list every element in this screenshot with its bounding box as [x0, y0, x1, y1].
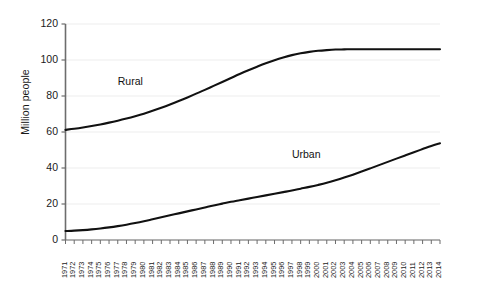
series-label-urban: Urban: [292, 148, 321, 160]
series-line-rural: [66, 49, 441, 130]
x-tick-label: 1994: [260, 262, 269, 278]
x-tick-label: 2006: [364, 262, 373, 278]
x-tick-label: 1980: [138, 262, 147, 278]
chart-container: Million people 020406080100120 197119721…: [0, 0, 480, 282]
x-tick-label: 1993: [251, 262, 260, 278]
x-tick-label: 2011: [408, 262, 417, 278]
y-tick-label: 120: [24, 18, 58, 28]
x-tick-label: 2000: [312, 262, 321, 278]
x-tick-label: 1976: [103, 262, 112, 278]
series-label-rural: Rural: [118, 75, 143, 87]
x-tick-label: 1989: [216, 262, 225, 278]
x-tick-label: 1973: [77, 262, 86, 278]
x-tick-label: 1972: [68, 262, 77, 278]
x-tick-label: 2003: [338, 262, 347, 278]
x-tick-label: 2010: [399, 262, 408, 278]
x-tick-label: 1990: [225, 262, 234, 278]
x-tick-label: 1975: [94, 262, 103, 278]
x-tick-label: 2014: [434, 262, 443, 278]
x-tick-label: 1996: [277, 262, 286, 278]
y-tick-label: 60: [24, 126, 58, 136]
x-tick-label: 1986: [190, 262, 199, 278]
series-line-urban: [66, 143, 441, 231]
y-tick-label: 20: [24, 198, 58, 208]
x-tick-label: 2013: [425, 262, 434, 278]
y-tick-label: 100: [24, 54, 58, 64]
x-tick-label: 1983: [164, 262, 173, 278]
x-tick-label: 2004: [347, 262, 356, 278]
plot-area: [0, 0, 480, 282]
x-tick-label: 2007: [373, 262, 382, 278]
y-tick-label: 40: [24, 162, 58, 172]
y-tick-label: 0: [24, 234, 58, 244]
x-tick-label: 1982: [155, 262, 164, 278]
x-tick-label: 1997: [286, 262, 295, 278]
x-tick-label: 1987: [199, 262, 208, 278]
x-tick-label: 1979: [129, 262, 138, 278]
y-tick-label: 80: [24, 90, 58, 100]
y-axis-tick-labels: 020406080100120: [22, 0, 58, 282]
x-tick-label: 1999: [303, 262, 312, 278]
